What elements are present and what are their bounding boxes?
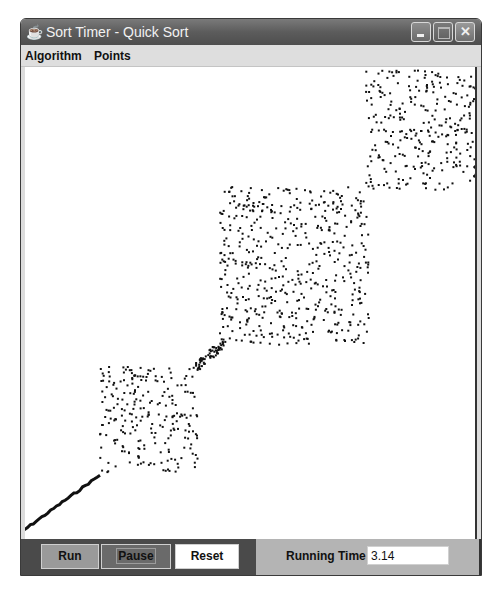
- minimize-button[interactable]: [411, 22, 431, 42]
- running-time-label: Running Time: [286, 549, 366, 563]
- sort-timer-window: ☕ Sort Timer - Quick Sort ✕ Algorithm Po…: [20, 18, 482, 576]
- running-time-field[interactable]: [367, 546, 449, 565]
- sort-visualization-canvas: [25, 67, 477, 539]
- running-time-panel: Running Time: [256, 539, 481, 575]
- maximize-icon: [438, 27, 450, 39]
- window-title: Sort Timer - Quick Sort: [46, 24, 188, 40]
- control-panel: Run Pause Reset Running Time: [21, 539, 481, 576]
- reset-button[interactable]: Reset: [175, 544, 239, 569]
- menu-points[interactable]: Points: [94, 49, 131, 63]
- close-button[interactable]: ✕: [455, 22, 475, 42]
- minimize-icon: [417, 34, 424, 37]
- maximize-button[interactable]: [433, 22, 453, 42]
- run-button[interactable]: Run: [41, 544, 99, 569]
- menu-algorithm[interactable]: Algorithm: [25, 49, 82, 63]
- points-plot: [25, 67, 477, 539]
- title-bar[interactable]: ☕ Sort Timer - Quick Sort ✕: [21, 19, 481, 45]
- pause-button[interactable]: Pause: [101, 544, 171, 569]
- close-icon: ✕: [460, 24, 471, 39]
- menu-bar: Algorithm Points: [21, 45, 481, 67]
- pause-button-label: Pause: [116, 548, 155, 564]
- java-cup-icon: ☕: [26, 24, 42, 40]
